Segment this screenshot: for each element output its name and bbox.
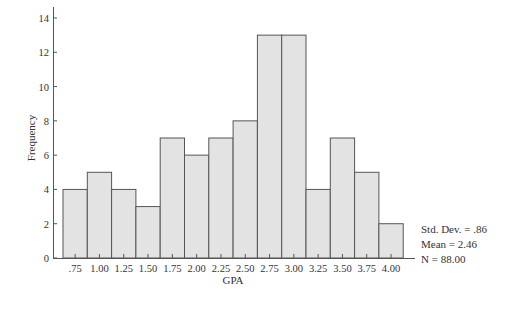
summary-statistics: Std. Dev. = .86 Mean = 2.46 N = 88.00 — [421, 222, 487, 267]
x-tick-label: 1.25 — [115, 263, 133, 274]
x-tick-label: 3.25 — [309, 263, 327, 274]
histogram-bar — [136, 207, 160, 258]
histogram-bar — [306, 189, 330, 258]
x-tick-label: 1.50 — [139, 263, 157, 274]
histogram-bar — [185, 155, 209, 258]
x-tick-label: .75 — [69, 263, 82, 274]
std-dev-label: Std. Dev. = .86 — [421, 222, 487, 237]
x-axis-title: GPA — [223, 274, 244, 286]
histogram-bar — [379, 224, 403, 258]
histogram-bar — [63, 189, 87, 258]
histogram-bar — [87, 172, 111, 258]
y-tick-label: 6 — [44, 150, 49, 161]
histogram-bar — [209, 138, 233, 258]
x-tick-label: 3.50 — [333, 263, 351, 274]
histogram-bar — [355, 172, 379, 258]
x-tick-label: 3.00 — [285, 263, 303, 274]
x-tick-label: 2.25 — [212, 263, 230, 274]
y-tick-label: 8 — [44, 116, 49, 127]
x-tick-label: 2.75 — [260, 263, 278, 274]
y-tick-label: 12 — [39, 47, 50, 58]
y-tick-label: 0 — [44, 253, 49, 264]
histogram-bar — [160, 138, 184, 258]
y-axis-title: Frequency — [25, 114, 37, 161]
histogram-bar — [330, 138, 354, 258]
histogram-bar — [282, 35, 306, 258]
histogram-bars — [63, 35, 403, 258]
histogram-bar — [233, 121, 257, 258]
y-tick-label: 14 — [39, 13, 50, 24]
n-label: N = 88.00 — [421, 252, 487, 267]
histogram-bar — [257, 35, 281, 258]
y-tick-label: 4 — [44, 184, 50, 195]
x-tick-label: 2.50 — [236, 263, 254, 274]
histogram-bar — [112, 189, 136, 258]
x-tick-label: 2.00 — [187, 263, 205, 274]
mean-label: Mean = 2.46 — [421, 237, 487, 252]
x-tick-label: 1.00 — [90, 263, 108, 274]
y-tick-label: 10 — [39, 82, 50, 93]
y-tick-label: 2 — [44, 219, 49, 230]
x-tick-label: 1.75 — [163, 263, 181, 274]
y-axis: 02468101214 — [39, 7, 58, 264]
x-tick-label: 4.00 — [382, 263, 400, 274]
x-tick-label: 3.75 — [358, 263, 376, 274]
